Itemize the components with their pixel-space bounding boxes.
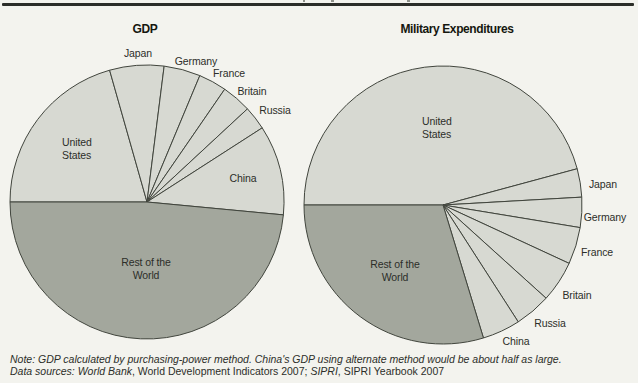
gdp-chart-title: GDP xyxy=(133,22,158,36)
note-line-2: Data sources: World Bank, World Developm… xyxy=(10,365,630,377)
military-pie-chart xyxy=(304,66,582,344)
label-mil-rest-of-world: Rest of the World xyxy=(363,258,427,283)
note-line-1: Note: GDP calculated by purchasing-power… xyxy=(10,353,630,365)
note-data-sources-text: Data sources: World Bank xyxy=(10,365,132,377)
label-mil-britain: Britain xyxy=(562,289,591,302)
note-sipri-text: SIPRI xyxy=(310,365,337,377)
label-gdp-japan: Japan xyxy=(124,47,152,60)
label-mil-china: China xyxy=(503,335,530,348)
label-gdp-britain: Britain xyxy=(237,85,266,98)
label-gdp-france: France xyxy=(213,67,245,80)
label-mil-germany: Germany xyxy=(584,211,626,224)
label-mil-russia: Russia xyxy=(534,317,566,330)
military-chart-title: Military Expenditures xyxy=(401,22,514,36)
note-wdi-text: , World Development Indicators 2007; xyxy=(132,365,310,377)
label-gdp-united-states: United States xyxy=(62,136,118,161)
label-gdp-china: China xyxy=(230,172,257,185)
label-mil-united-states: United States xyxy=(422,115,478,140)
figure-page: GDP Military Expenditures United States … xyxy=(0,0,638,383)
label-gdp-germany: Germany xyxy=(175,55,217,68)
note-yearbook-text: , SIPRI Yearbook 2007 xyxy=(338,365,444,377)
label-mil-france: France xyxy=(581,246,613,259)
figure-note: Note: GDP calculated by purchasing-power… xyxy=(10,353,630,378)
gdp-pie-chart xyxy=(10,65,284,339)
label-gdp-russia: Russia xyxy=(259,104,291,117)
label-mil-japan: Japan xyxy=(589,178,617,191)
label-gdp-rest-of-world: Rest of the World xyxy=(114,256,178,281)
